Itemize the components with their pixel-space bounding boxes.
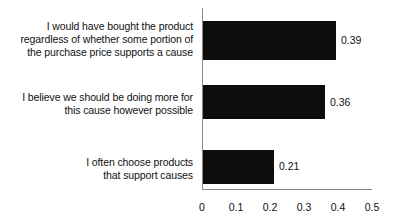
category-label-2: I often choose products that support cau… [0,156,193,182]
x-tick-1: 0.1 [221,201,251,213]
category-label-2-line-1: that support causes [0,169,193,182]
plot-area: 0.39 0.36 0.21 0 0.1 0.2 0.3 0.4 0.5 [202,8,372,190]
category-label-1-line-1: this cause however possible [0,104,193,117]
category-label-1-line-0: I believe we should be doing more for [0,91,193,104]
bar-0 [203,21,336,60]
x-tick-5: 0.5 [357,201,387,213]
category-label-1: I believe we should be doing more for th… [0,91,193,117]
bar-chart: I would have bought the product regardle… [0,0,402,224]
x-tick-0: 0 [187,201,217,213]
category-label-0-line-0: I would have bought the product [0,20,193,33]
category-label-0-line-1: regardless of whether some portion of [0,33,193,46]
category-label-0: I would have bought the product regardle… [0,20,193,60]
category-label-2-line-0: I often choose products [0,156,193,169]
category-labels: I would have bought the product regardle… [0,0,197,190]
x-tick-4: 0.4 [323,201,353,213]
x-tick-3: 0.3 [289,201,319,213]
x-axis-line [202,189,372,190]
bar-2 [203,150,274,184]
bar-1 [203,85,325,119]
x-tick-2: 0.2 [255,201,285,213]
bar-value-2: 0.21 [279,161,299,172]
category-label-0-line-2: the purchase price supports a cause [0,46,193,59]
bar-value-0: 0.39 [341,35,361,46]
bar-value-1: 0.36 [330,97,350,108]
